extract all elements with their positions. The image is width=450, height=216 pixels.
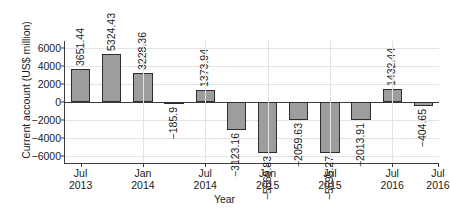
grid-line-vertical <box>205 41 206 163</box>
x-tick-label-year: 2016 <box>426 180 449 192</box>
y-tick-label: −2000 <box>32 114 62 126</box>
x-tick-label-month: Jul <box>426 168 449 180</box>
bar[interactable] <box>289 102 308 120</box>
y-tick-mark <box>61 66 65 67</box>
grid-line <box>65 138 439 139</box>
y-tick-label: 2000 <box>38 78 61 90</box>
grid-line-vertical <box>143 41 144 163</box>
bar-value-label: 5324.43 <box>106 13 117 51</box>
x-tick-label-year: 2014 <box>194 180 217 192</box>
bar-value-label: −2059.63 <box>293 123 304 167</box>
y-tick-mark <box>61 119 65 120</box>
y-tick-label: −4000 <box>32 132 62 144</box>
x-tick-label: Jan2015 <box>256 168 279 191</box>
y-tick-label: −6000 <box>32 150 62 162</box>
x-tick-label: Jul2013 <box>69 168 92 191</box>
y-tick-mark <box>61 155 65 156</box>
bar-value-label: −404.65 <box>417 109 428 147</box>
x-tick-label-year: 2016 <box>381 180 404 192</box>
x-tick-label-year: 2014 <box>131 180 154 192</box>
grid-line <box>65 48 439 49</box>
x-tick-label: Jan2014 <box>131 168 154 191</box>
y-tick-mark <box>61 84 65 85</box>
zero-baseline <box>65 102 439 103</box>
y-axis-title: Current account (US$ million) <box>20 10 32 170</box>
grid-line-vertical <box>330 41 331 163</box>
x-tick-label-month: Jul <box>318 168 341 180</box>
x-tick-label-year: 2013 <box>69 180 92 192</box>
y-tick-label: 0 <box>55 96 61 108</box>
y-tick-label: 6000 <box>38 42 61 54</box>
x-tick-label-year: 2015 <box>318 180 341 192</box>
y-tick-label: 4000 <box>38 60 61 72</box>
x-tick-label: Jul2014 <box>194 168 217 191</box>
x-tick-label: Jul2016 <box>426 168 449 191</box>
bar-value-label: −2013.91 <box>355 123 366 167</box>
x-tick-label-month: Jul <box>381 168 404 180</box>
grid-line <box>65 120 439 121</box>
bar[interactable] <box>164 102 183 104</box>
bar-value-label: −185.9 <box>168 107 179 139</box>
x-tick-label-month: Jul <box>194 168 217 180</box>
x-tick-label: Jul2015 <box>318 168 341 191</box>
x-tick-label-month: Jan <box>256 168 279 180</box>
x-tick-label-month: Jul <box>69 168 92 180</box>
bar[interactable] <box>227 102 246 130</box>
grid-line <box>65 156 439 157</box>
x-tick-label: Jul2016 <box>381 168 404 191</box>
plot-area: 6000400020000−2000−4000−60003651.445324.… <box>64 41 439 164</box>
bar[interactable] <box>351 102 370 120</box>
bar[interactable] <box>102 54 121 102</box>
bar-value-label: −3123.16 <box>230 133 241 177</box>
bar[interactable] <box>71 69 90 102</box>
x-tick-label-year: 2015 <box>256 180 279 192</box>
x-tick-label-month: Jan <box>131 168 154 180</box>
bar-value-label: 3651.44 <box>75 28 86 66</box>
bar[interactable] <box>414 102 433 106</box>
grid-line-vertical <box>392 41 393 163</box>
grid-line-vertical <box>268 41 269 163</box>
y-tick-mark <box>61 137 65 138</box>
y-tick-mark <box>61 48 65 49</box>
x-axis-title: Year <box>0 193 449 205</box>
